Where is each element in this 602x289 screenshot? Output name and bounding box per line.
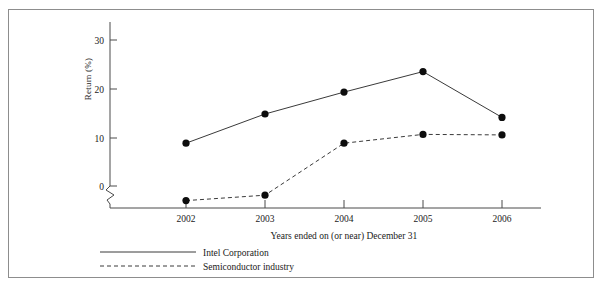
y-tick-label-0: 0 <box>99 182 104 192</box>
y-axis-title: Return (%) <box>83 43 93 115</box>
axis-break-symbol <box>106 186 114 208</box>
x-tick-label-2006: 2006 <box>493 214 512 224</box>
data-point-intel-2003 <box>261 110 268 117</box>
x-axis: 2002 2003 2004 2005 2006 Years ended on … <box>110 200 541 242</box>
y-axis: 30 20 10 0 <box>95 22 118 208</box>
legend-item-intel-corporation: Intel Corporation <box>100 248 269 258</box>
data-point-semiconductor-2004 <box>340 140 347 147</box>
series-semiconductor-industry <box>182 131 505 204</box>
x-tick-label-2003: 2003 <box>256 214 275 224</box>
y-tick-label-30: 30 <box>95 36 105 46</box>
x-tick-label-2004: 2004 <box>335 214 354 224</box>
legend-item-semiconductor-industry: Semiconductor industry <box>100 262 294 272</box>
legend-label-intel-corporation: Intel Corporation <box>203 248 269 258</box>
chart-page: 30 20 10 0 2002 2003 2004 2005 2006 Year… <box>0 0 602 289</box>
data-point-semiconductor-2002 <box>182 197 189 204</box>
data-point-semiconductor-2005 <box>419 131 426 138</box>
legend-label-semiconductor-industry: Semiconductor industry <box>203 262 294 272</box>
data-point-intel-2004 <box>340 89 347 96</box>
data-point-semiconductor-2006 <box>498 131 505 138</box>
data-point-intel-2005 <box>419 68 426 75</box>
x-tick-label-2005: 2005 <box>414 214 433 224</box>
x-axis-title: Years ended on (or near) December 31 <box>271 231 418 242</box>
data-point-intel-2002 <box>182 140 189 147</box>
y-tick-label-10: 10 <box>95 134 105 144</box>
chart-legend: Intel Corporation Semiconductor industry <box>100 248 294 272</box>
series-intel-line <box>186 72 502 144</box>
data-point-semiconductor-2003 <box>261 192 268 199</box>
x-tick-label-2002: 2002 <box>177 214 196 224</box>
y-tick-label-20: 20 <box>95 85 105 95</box>
data-point-intel-2006 <box>498 114 505 121</box>
